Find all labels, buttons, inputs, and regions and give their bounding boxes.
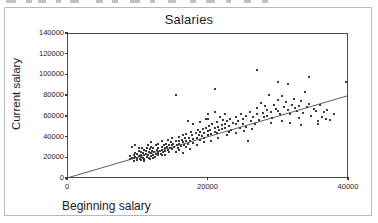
scatter-point (229, 118, 231, 120)
scatter-point (262, 112, 264, 114)
scatter-point (345, 81, 347, 83)
text-remnant (262, 0, 268, 3)
scatter-point (131, 157, 133, 159)
scatter-point (254, 123, 256, 125)
scatter-point (319, 104, 321, 106)
scatter-point (134, 144, 136, 146)
scatter-point (252, 116, 254, 118)
scatter-point (228, 131, 230, 133)
scatter-point (172, 143, 174, 145)
scatter-point (216, 121, 218, 123)
scatter-point (287, 83, 289, 85)
scatter-point (210, 133, 212, 135)
y-tick-label: 100000 (39, 70, 64, 78)
scatter-point (317, 120, 319, 122)
scatter-point (173, 146, 175, 148)
scatter-point (287, 109, 289, 111)
text-remnant (130, 0, 140, 3)
scatter-point (214, 111, 216, 113)
scatter-point (152, 157, 154, 159)
scatter-point (258, 119, 260, 121)
scatter-point (185, 133, 187, 135)
scatter-point (178, 149, 180, 151)
scatter-point (239, 127, 241, 129)
scatter-point (216, 132, 218, 134)
scatter-point (143, 160, 145, 162)
text-remnant (244, 0, 251, 3)
scatter-point (260, 102, 262, 104)
scatter-point (189, 148, 191, 150)
x-tick-label: 20000 (178, 183, 238, 191)
scatter-point (205, 118, 207, 120)
scatter-point (203, 132, 205, 134)
scatter-point (306, 106, 308, 108)
scatter-point (217, 137, 219, 139)
scatter-point (185, 146, 187, 148)
scatter-point (136, 159, 138, 161)
scatter-plot-area (67, 33, 348, 178)
x-tick-label: 40000 (318, 183, 378, 191)
scatter-point (150, 141, 152, 143)
y-tick-mark (65, 115, 68, 116)
text-remnant (112, 0, 118, 3)
scatter-point (245, 126, 247, 128)
scatter-point (242, 123, 244, 125)
scatter-point (273, 104, 275, 106)
scatter-point (171, 148, 173, 150)
scatter-point (188, 137, 190, 139)
scatter-point (146, 147, 148, 149)
scatter-point (240, 113, 242, 115)
scatter-point (209, 129, 211, 131)
scatter-point (147, 154, 149, 156)
y-axis-title: Current salary (10, 39, 22, 149)
text-remnant (206, 0, 215, 3)
scatter-point (192, 138, 194, 140)
scatter-point (196, 144, 198, 146)
scatter-point (195, 132, 197, 134)
scatter-point (277, 99, 279, 101)
scatter-point (298, 105, 300, 107)
scatter-point (157, 152, 159, 154)
scatter-point (251, 128, 253, 130)
scatter-point (222, 119, 224, 121)
x-axis-title: Beginning salary (62, 199, 151, 213)
scatter-point (315, 110, 317, 112)
y-tick-label: 40000 (43, 133, 64, 141)
scatter-point (203, 137, 205, 139)
x-tick-mark (66, 177, 67, 180)
scatter-point (281, 95, 283, 97)
scatter-point (182, 141, 184, 143)
scatter-point (235, 116, 237, 118)
scatter-point (199, 139, 201, 141)
scatter-point (300, 100, 302, 102)
scatter-point (155, 144, 157, 146)
scatter-point (199, 121, 201, 123)
scatter-point (277, 110, 279, 112)
y-tick-mark (65, 53, 68, 54)
scatter-point (197, 129, 199, 131)
scatter-point (214, 127, 216, 129)
scatter-point (138, 147, 140, 149)
y-tick-label: 0 (60, 174, 64, 182)
scatter-point (191, 134, 193, 136)
scatter-point (256, 113, 258, 115)
scatter-point (187, 143, 189, 145)
scatter-point (321, 116, 323, 118)
scatter-point (149, 158, 151, 160)
scatter-point (266, 115, 268, 117)
scatter-point (152, 147, 154, 149)
scatter-point (218, 129, 220, 131)
scatter-point (207, 130, 209, 132)
scatter-point (168, 151, 170, 153)
y-tick-mark (65, 136, 68, 137)
scatter-point (326, 109, 328, 111)
scatter-point (230, 129, 232, 131)
scatter-point (271, 117, 273, 119)
scatter-point (263, 116, 265, 118)
scatter-point (154, 156, 156, 158)
scatter-point (217, 126, 219, 128)
scatter-point (270, 122, 272, 124)
y-tick-mark (65, 74, 68, 75)
x-tick-mark (207, 177, 208, 180)
x-tick-label: 0 (37, 183, 97, 191)
